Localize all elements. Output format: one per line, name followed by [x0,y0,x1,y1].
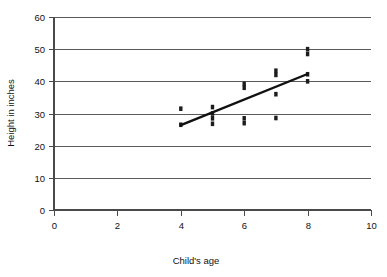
y-tick-label-20: 20 [34,141,45,152]
data-point [243,121,246,126]
x-tick-label-0: 0 [52,220,57,231]
y-tick-label-60: 60 [34,12,45,23]
data-point [243,116,246,121]
data-point [274,73,277,78]
x-tick-label-6: 6 [242,220,247,231]
data-point [211,116,214,121]
y-tick-label-50: 50 [34,44,45,55]
y-tick-label-30: 30 [34,109,45,120]
y-tick-label-0: 0 [40,205,45,216]
data-points-group [179,47,309,127]
data-point [274,116,277,121]
y-tick-label-40: 40 [34,76,45,87]
data-point [243,85,246,90]
x-tick-label-2: 2 [115,220,120,231]
data-point [306,79,309,84]
data-point [306,47,309,52]
data-point [211,121,214,126]
x-tick-label-8: 8 [306,220,311,231]
y-tick-label-10: 10 [34,173,45,184]
data-point [211,105,214,110]
scatter-chart: 0102030405060 0246810 Child's age Height… [0,0,387,277]
data-point [274,92,277,97]
x-tick-label-4: 4 [179,220,184,231]
x-axis-title: Child's age [173,255,220,266]
x-tick-label-10: 10 [366,220,377,231]
x-tick-group: 0246810 [52,210,377,231]
y-tick-group: 0102030405060 [34,12,54,216]
data-point [274,68,277,73]
data-point [179,106,182,111]
y-axis-title: Height in inches [5,79,16,147]
chart-canvas: 0102030405060 0246810 Child's age Height… [0,0,387,277]
data-point [306,52,309,57]
